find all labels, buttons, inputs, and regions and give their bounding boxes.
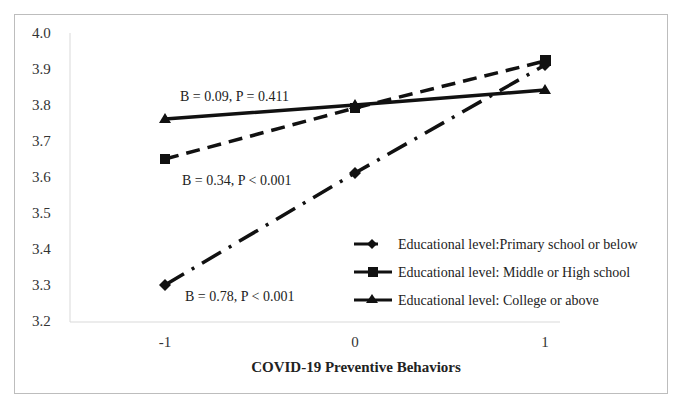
annotation-primary: B = 0.78, P < 0.001 — [185, 289, 294, 304]
legend-label: Educational level: College or above — [398, 293, 599, 308]
y-axis-ticks: 4.0 3.9 3.8 3.7 3.6 3.5 3.4 3.3 3.2 — [32, 25, 51, 329]
y-tick: 3.3 — [32, 277, 51, 293]
square-marker — [540, 55, 551, 66]
legend: Educational level:Primary school or belo… — [354, 237, 638, 308]
legend-label: Educational level: Middle or High school — [398, 265, 630, 280]
x-tick: -1 — [159, 334, 172, 350]
y-tick: 3.9 — [32, 61, 51, 77]
x-tick: 1 — [541, 334, 549, 350]
x-axis-label: COVID-19 Preventive Behaviors — [251, 359, 461, 375]
diamond-icon — [367, 239, 377, 249]
y-tick: 3.5 — [32, 205, 51, 221]
x-axis-ticks: -1 0 1 — [159, 334, 549, 350]
x-tick: 0 — [351, 334, 359, 350]
legend-label: Educational level:Primary school or belo… — [398, 237, 638, 252]
y-tick: 3.7 — [32, 133, 51, 149]
y-tick: 3.2 — [32, 313, 51, 329]
series-middle-high — [160, 55, 551, 164]
y-tick: 3.6 — [32, 169, 51, 185]
annotation-middle-high: B = 0.34, P < 0.001 — [182, 173, 291, 188]
square-icon — [368, 267, 378, 277]
annotation-college: B = 0.09, P = 0.411 — [180, 89, 289, 104]
y-tick: 3.4 — [32, 241, 51, 257]
legend-item-primary: Educational level:Primary school or belo… — [354, 237, 638, 252]
y-tick: 4.0 — [32, 25, 51, 41]
legend-item-college: Educational level: College or above — [354, 293, 599, 308]
square-marker — [160, 154, 170, 164]
y-tick: 3.8 — [32, 97, 51, 113]
legend-item-middle-high: Educational level: Middle or High school — [354, 265, 630, 280]
